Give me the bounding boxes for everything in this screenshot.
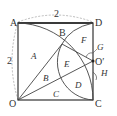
label-A: A xyxy=(10,17,18,28)
region-F: F xyxy=(80,35,87,45)
label-C: C xyxy=(95,98,102,109)
label-O: O xyxy=(9,98,16,109)
arc-DB xyxy=(62,23,93,44)
label-O-prime: O′ xyxy=(95,56,104,67)
label-D: D xyxy=(95,17,102,28)
label-top-length: 2 xyxy=(54,8,59,19)
region-C: C xyxy=(53,89,60,99)
callout-G: G xyxy=(97,42,104,52)
region-A: A xyxy=(30,51,37,61)
callout-H: H xyxy=(100,68,108,78)
label-B-point: B xyxy=(59,27,66,38)
angle-G-mark xyxy=(86,53,93,57)
geometry-diagram: A D O C B O′ 2 2 A B C D E F G H xyxy=(0,0,117,116)
region-B: B xyxy=(43,73,49,83)
label-left-length: 2 xyxy=(7,55,12,66)
region-E: E xyxy=(63,59,70,69)
left-dimension-arc xyxy=(12,22,18,100)
region-D: D xyxy=(74,80,82,90)
